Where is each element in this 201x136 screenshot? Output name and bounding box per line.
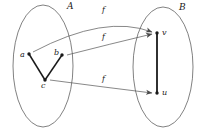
figure-canvas bbox=[0, 0, 201, 136]
mapping-label-b-to-v: f bbox=[102, 33, 105, 41]
mapping-label-a-to-v: f bbox=[102, 6, 105, 14]
vertex-dot-u bbox=[155, 91, 158, 94]
vertex-label-v: v bbox=[162, 29, 167, 37]
mapping-label-c-to-u: f bbox=[102, 75, 105, 83]
edge-a-c bbox=[29, 54, 45, 80]
vertex-label-a: a bbox=[20, 51, 25, 59]
set-ellipse-domain bbox=[13, 5, 73, 127]
graph-homomorphism-figure: A B a b c v u f f f bbox=[0, 0, 201, 136]
mapping-arrow-c-to-u bbox=[50, 80, 152, 93]
vertex-label-u: u bbox=[162, 89, 167, 97]
mapping-arrow-b-to-v bbox=[67, 34, 152, 55]
set-label-codomain: B bbox=[179, 3, 186, 12]
set-ellipse-codomain bbox=[133, 7, 193, 127]
vertex-dot-a bbox=[27, 52, 30, 55]
set-label-domain: A bbox=[67, 2, 74, 11]
vertex-dot-v bbox=[155, 31, 158, 34]
edge-b-c bbox=[45, 55, 62, 80]
vertex-dot-b bbox=[60, 53, 63, 56]
vertex-label-b: b bbox=[54, 49, 59, 57]
vertex-label-c: c bbox=[41, 82, 45, 90]
